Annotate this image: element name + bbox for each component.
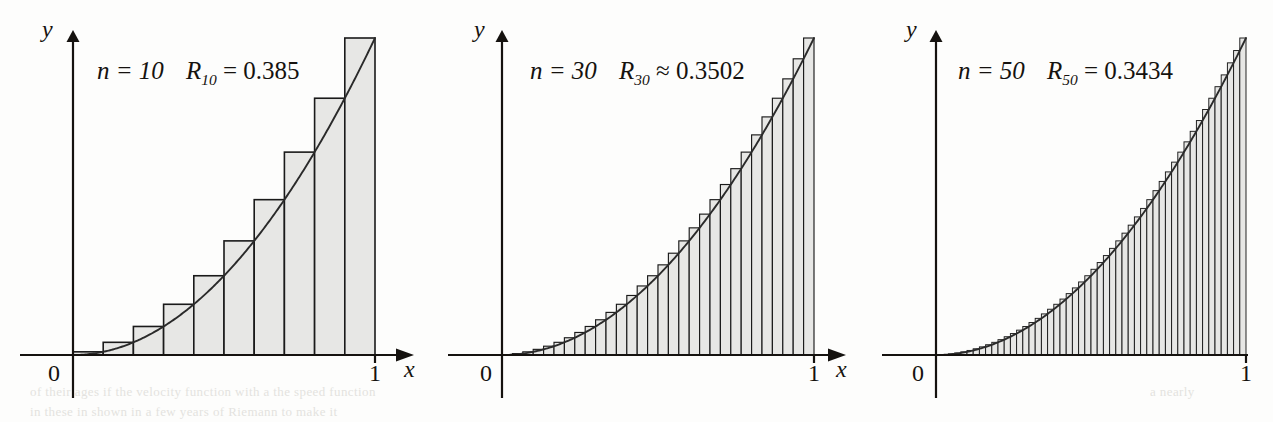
bar: [1178, 152, 1184, 355]
panel-n30-n-text: n = 30: [530, 57, 597, 84]
bar: [1079, 282, 1085, 355]
panel-n30-r-subscript: 30: [634, 71, 650, 88]
panel-n10-r-value: 0.385: [243, 57, 299, 84]
bar: [1147, 200, 1153, 355]
bar: [1184, 142, 1190, 355]
bar: [1054, 304, 1060, 355]
bar: [164, 304, 194, 355]
bar: [1060, 299, 1066, 355]
panel-n10-r-subscript: 10: [201, 71, 217, 88]
panel-n50: n = 50R50 = 0.3434 y 0 1: [860, 0, 1273, 422]
bar: [720, 185, 730, 355]
bar: [1153, 191, 1159, 355]
panel-n30-origin-label: 0: [480, 360, 492, 387]
panel-n50-r-term: R50: [1047, 57, 1078, 84]
bar: [1203, 110, 1209, 355]
panel-n10-n-text: n = 10: [97, 57, 164, 84]
bar: [1122, 233, 1128, 355]
bar: [1035, 318, 1041, 355]
bar: [1159, 181, 1165, 355]
panel-n10-origin-label: 0: [48, 360, 60, 387]
bar: [700, 214, 710, 355]
bar: [679, 241, 689, 355]
bar: [762, 117, 772, 355]
y-axis-arrowhead: [496, 30, 509, 42]
bar: [1097, 263, 1103, 355]
bar: [1110, 248, 1116, 355]
panel-n50-origin-label: 0: [912, 360, 924, 387]
panel-n50-n-text: n = 50: [958, 57, 1025, 84]
bar: [804, 38, 814, 355]
bar: [1116, 241, 1122, 355]
bar: [648, 276, 658, 355]
y-axis-arrowhead: [67, 30, 80, 42]
bar: [1128, 225, 1134, 355]
panel-n30: n = 30R30 ≈ 0.3502 y x 0 1: [430, 0, 860, 422]
bar: [194, 276, 224, 355]
bar: [668, 253, 678, 355]
bar: [783, 79, 793, 355]
y-axis-arrowhead: [930, 30, 943, 42]
bar: [1234, 51, 1240, 355]
panel-n50-x-tick-label: 1: [1240, 360, 1252, 387]
bar: [1215, 87, 1221, 355]
bar: [315, 98, 345, 355]
bar: [1240, 38, 1246, 355]
panel-n10: n = 10R10 = 0.385 y x 0 1: [0, 0, 430, 422]
panel-n30-y-axis-label: y: [474, 16, 485, 43]
bar: [1091, 269, 1097, 355]
panel-n10-x-axis-label: x: [404, 356, 415, 383]
panel-n50-y-axis-label: y: [906, 16, 917, 43]
bar: [689, 228, 699, 355]
bar: [284, 152, 314, 355]
panel-n30-r-symbol: R: [619, 57, 634, 84]
bar: [1141, 208, 1147, 355]
bar: [1221, 75, 1227, 355]
panel-n50-r-symbol: R: [1047, 57, 1062, 84]
panel-n10-relation: =: [223, 57, 237, 84]
panel-n50-relation: =: [1084, 57, 1098, 84]
bar: [710, 200, 720, 355]
bar: [793, 59, 803, 355]
panel-n10-annotation: n = 10R10 = 0.385: [97, 58, 300, 88]
bar: [1165, 172, 1171, 355]
bar: [345, 38, 375, 355]
bar: [1023, 326, 1029, 355]
panel-n30-annotation: n = 30R30 ≈ 0.3502: [530, 58, 745, 88]
bar: [1172, 162, 1178, 355]
bar: [1072, 288, 1078, 355]
panel-n50-annotation: n = 50R50 = 0.3434: [958, 58, 1173, 88]
panel-n30-x-tick-label: 1: [808, 360, 820, 387]
bar: [1066, 294, 1072, 355]
panel-n30-x-axis-label: x: [836, 356, 847, 383]
bar: [1103, 256, 1109, 355]
panel-n10-x-tick-label: 1: [369, 360, 381, 387]
bar: [1190, 131, 1196, 355]
bar: [658, 265, 668, 355]
bar: [1048, 309, 1054, 355]
bar: [637, 286, 647, 355]
panel-n30-r-value: 0.3502: [676, 57, 745, 84]
bar: [1085, 276, 1091, 355]
panel-n50-r-subscript: 50: [1062, 71, 1078, 88]
bar: [752, 135, 762, 355]
panel-n10-r-symbol: R: [186, 57, 201, 84]
bar: [1227, 63, 1233, 355]
bar: [741, 152, 751, 355]
bar: [1029, 323, 1035, 355]
bar: [1209, 98, 1215, 355]
bar: [254, 200, 284, 355]
panel-n30-relation: ≈: [656, 57, 670, 84]
bar: [1196, 121, 1202, 355]
panel-n10-r-term: R10: [186, 57, 217, 84]
panel-n10-y-axis-label: y: [42, 16, 53, 43]
bar: [627, 295, 637, 355]
bar: [1134, 217, 1140, 355]
bar: [772, 98, 782, 355]
bar: [1041, 314, 1047, 355]
bar: [731, 169, 741, 355]
panel-n50-r-value: 0.3434: [1104, 57, 1173, 84]
riemann-sum-figure: of their ages if the velocity function w…: [0, 0, 1273, 422]
panel-n30-r-term: R30: [619, 57, 650, 84]
